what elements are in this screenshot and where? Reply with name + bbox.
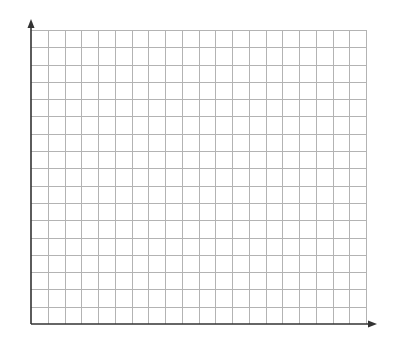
coordinate-grid-diagram xyxy=(0,0,395,348)
background xyxy=(0,0,395,348)
